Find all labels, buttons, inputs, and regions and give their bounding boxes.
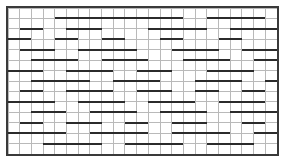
screenshot-canvas: [0, 0, 285, 162]
grid-pattern-svg: [0, 0, 285, 162]
grid-pattern-figure: [0, 0, 285, 162]
